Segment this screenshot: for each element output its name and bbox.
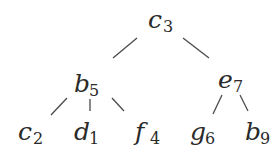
- node-letter: f: [133, 117, 148, 146]
- node-letter: b: [74, 69, 90, 98]
- node-subscript: 3: [163, 17, 173, 36]
- tree-svg: c3b5e7c2d1f4g6b9: [0, 0, 280, 153]
- node-b9: b9: [245, 117, 270, 148]
- node-letter: c: [148, 5, 162, 34]
- node-subscript: 2: [33, 129, 43, 148]
- node-c3: c3: [148, 5, 173, 36]
- node-subscript: 9: [260, 129, 270, 148]
- edge-e7-g6: [213, 95, 222, 114]
- node-e7: e7: [218, 65, 243, 96]
- edge-c3-b5: [113, 38, 137, 58]
- edge-b5-f4: [112, 98, 124, 111]
- node-letter: b: [245, 117, 261, 146]
- node-subscript: 1: [89, 129, 99, 148]
- node-letter: g: [190, 117, 206, 146]
- node-subscript: 7: [233, 77, 243, 96]
- node-b5: b5: [74, 69, 99, 100]
- node-d1: d1: [74, 117, 99, 148]
- tree-diagram: c3b5e7c2d1f4g6b9: [0, 0, 280, 153]
- node-subscript: 6: [205, 129, 215, 148]
- node-letter: e: [218, 65, 233, 94]
- edge-b5-c2: [51, 98, 67, 115]
- node-letter: c: [18, 117, 32, 146]
- nodes-group: c3b5e7c2d1f4g6b9: [18, 5, 270, 148]
- node-c2: c2: [18, 117, 43, 148]
- node-g6: g6: [190, 117, 215, 148]
- node-subscript: 5: [89, 81, 99, 100]
- node-letter: d: [74, 117, 90, 146]
- edge-e7-b9: [240, 95, 248, 111]
- edge-c3-e7: [183, 38, 209, 58]
- node-f4: f4: [133, 117, 160, 148]
- node-subscript: 4: [150, 129, 160, 148]
